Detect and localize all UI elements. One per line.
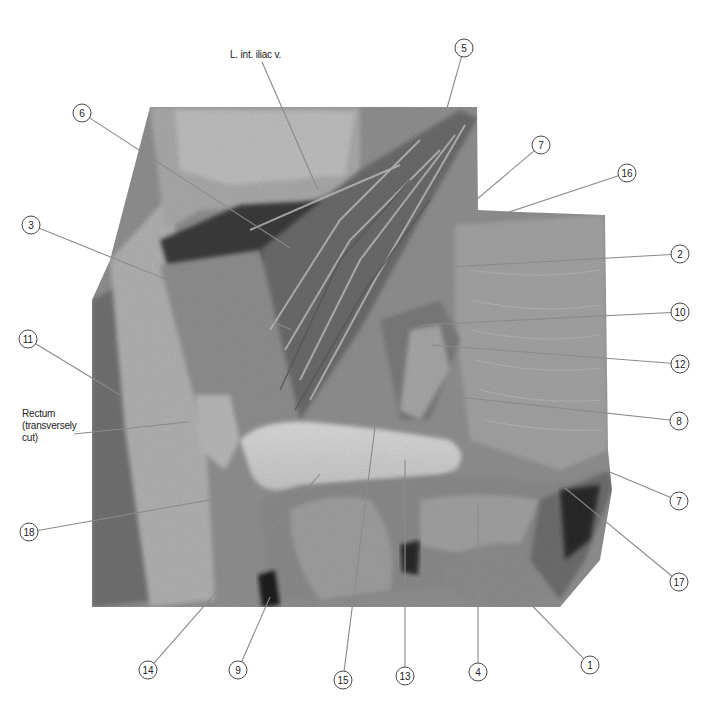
callout-number: 15 bbox=[337, 675, 349, 686]
callout-13: 13 bbox=[396, 667, 414, 685]
callout-number: 7 bbox=[538, 140, 544, 151]
callout-number: 6 bbox=[79, 108, 85, 119]
callout-number: 3 bbox=[28, 220, 34, 231]
dissection-photo: 5671632101112871817149151341 bbox=[0, 0, 722, 721]
callout-9: 9 bbox=[229, 661, 247, 679]
label-rectum-line-1: Rectum bbox=[22, 408, 77, 420]
label-rectum-line-3: cut) bbox=[22, 432, 77, 444]
callout-5: 5 bbox=[455, 39, 473, 57]
specimen bbox=[80, 100, 620, 620]
callout-number: 8 bbox=[676, 416, 682, 427]
callout-number: 4 bbox=[475, 667, 481, 678]
figure: 5671632101112871817149151341 L. int. ili… bbox=[0, 0, 722, 721]
label-l-int-iliac-v: L. int. iliac v. bbox=[230, 49, 281, 61]
label-rectum: Rectum (transversely cut) bbox=[22, 408, 77, 444]
callout-6: 6 bbox=[73, 104, 91, 122]
callout-number: 1 bbox=[587, 660, 593, 671]
callout-number: 5 bbox=[461, 43, 467, 54]
callout-15: 15 bbox=[334, 671, 352, 689]
callout-10: 10 bbox=[671, 303, 689, 321]
callout-7: 7 bbox=[532, 136, 550, 154]
callout-number: 17 bbox=[673, 577, 685, 588]
callout-12: 12 bbox=[671, 355, 689, 373]
callout-8: 8 bbox=[670, 412, 688, 430]
callout-1: 1 bbox=[581, 656, 599, 674]
callout-number: 18 bbox=[23, 527, 35, 538]
callout-number: 14 bbox=[142, 665, 154, 676]
callout-number: 16 bbox=[621, 168, 633, 179]
callout-16: 16 bbox=[618, 164, 636, 182]
callout-number: 10 bbox=[674, 307, 686, 318]
callout-number: 7 bbox=[676, 496, 682, 507]
callout-number: 12 bbox=[674, 359, 686, 370]
leader-line-5 bbox=[447, 57, 462, 108]
label-rectum-line-2: (transversely bbox=[22, 420, 77, 432]
callout-7: 7 bbox=[670, 492, 688, 510]
callout-number: 9 bbox=[235, 665, 241, 676]
callout-number: 11 bbox=[23, 334, 34, 345]
leader-line-7 bbox=[470, 151, 534, 205]
callout-2: 2 bbox=[671, 245, 689, 263]
callout-17: 17 bbox=[670, 573, 688, 591]
leader-line-7 bbox=[605, 470, 671, 498]
callout-number: 13 bbox=[399, 671, 411, 682]
callout-11: 11 bbox=[19, 330, 37, 348]
callout-3: 3 bbox=[22, 216, 40, 234]
callout-4: 4 bbox=[469, 663, 487, 681]
callout-14: 14 bbox=[139, 661, 157, 679]
callout-number: 2 bbox=[677, 249, 683, 260]
callout-18: 18 bbox=[20, 523, 38, 541]
